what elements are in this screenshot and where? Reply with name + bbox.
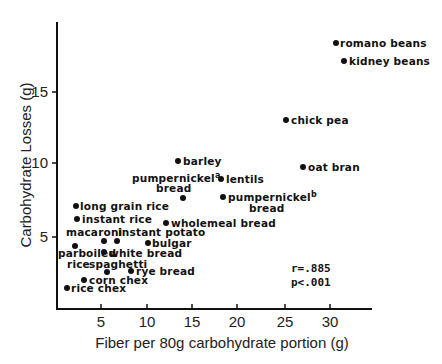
label-chick-pea: chick pea <box>291 114 349 126</box>
label-lentils: lentils <box>226 173 264 185</box>
point-macaroni <box>101 238 107 244</box>
label-rice-chex: rice chex <box>71 282 126 294</box>
scatter-chart: 5 10 15 5 10 15 20 25 30 Fiber per 80g c… <box>0 0 442 364</box>
x-tick-label: 5 <box>97 313 105 330</box>
point-pumpernickel-a <box>180 195 186 201</box>
point-long-grain-rice <box>73 203 79 209</box>
label-kidney-beans: kidney beans <box>349 55 430 67</box>
x-axis-title: Fiber per 80g carbohydrate portion (g) <box>95 334 348 351</box>
point-instant-potato <box>114 238 120 244</box>
label-pumpernickel-a-line2: bread <box>156 182 191 194</box>
point-romano-beans <box>333 40 339 46</box>
data-points: romano beans kidney beans chick pea barl… <box>58 37 430 294</box>
label-parboiled-rice-line2: rice <box>67 258 90 270</box>
point-instant-rice <box>74 216 80 222</box>
x-tick-label: 20 <box>229 313 246 330</box>
point-kidney-beans <box>341 58 347 64</box>
label-pumpernickel-b-line2: bread <box>249 202 284 214</box>
point-bulgar <box>145 240 151 246</box>
x-tick-label: 15 <box>184 313 201 330</box>
x-tick-label: 25 <box>277 313 294 330</box>
y-tick-label: 5 <box>40 228 48 245</box>
y-ticks: 5 10 15 <box>31 83 57 245</box>
label-long-grain-rice: long grain rice <box>80 200 169 212</box>
point-barley <box>175 158 181 164</box>
point-pumpernickel-b <box>220 194 226 200</box>
point-rice-chex <box>64 285 70 291</box>
correlation-p: p<.001 <box>291 276 331 289</box>
label-macaroni: macaroni <box>66 226 122 238</box>
label-barley: barley <box>183 155 222 167</box>
label-instant-rice: instant rice <box>82 213 152 225</box>
x-tick-label: 10 <box>139 313 156 330</box>
point-chick-pea <box>283 117 289 123</box>
label-romano-beans: romano beans <box>340 37 427 49</box>
point-oat-bran <box>300 164 306 170</box>
x-tick-label: 30 <box>322 313 339 330</box>
x-ticks: 5 10 15 20 25 30 <box>97 304 339 330</box>
label-oat-bran: oat bran <box>308 161 360 173</box>
y-axis-title: Carbohydrate Losses (g) <box>17 82 34 247</box>
point-white-bread <box>101 249 107 255</box>
correlation-r: r=.885 <box>291 262 331 275</box>
